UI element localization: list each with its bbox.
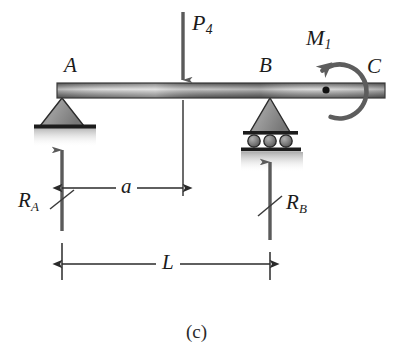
reaction-ra-arrow — [50, 150, 74, 231]
figure-caption: (c) — [186, 322, 207, 341]
label-point-c: C — [367, 56, 381, 77]
label-point-b: B — [259, 55, 272, 76]
beam — [57, 83, 385, 98]
label-point-a: A — [64, 55, 77, 76]
label-dimension-a: a — [116, 176, 137, 197]
moment-application-point — [322, 86, 329, 93]
pin-support-a — [34, 98, 96, 129]
label-dimension-l: L — [156, 252, 180, 273]
label-load-p4: P4 — [192, 12, 212, 34]
beam-free-body-diagram: A B C P4 M1 RA RB a L (c) — [0, 0, 406, 363]
roller-circles — [248, 135, 292, 147]
label-reaction-ra: RA — [18, 190, 39, 211]
label-moment-m1: M1 — [306, 27, 331, 49]
roller-support-b — [241, 98, 301, 151]
diagram-canvas — [0, 0, 406, 363]
support-b-shadow — [241, 152, 303, 172]
support-a-shadow — [34, 127, 96, 147]
label-reaction-rb: RB — [286, 192, 307, 213]
reaction-rb-arrow — [258, 162, 282, 240]
